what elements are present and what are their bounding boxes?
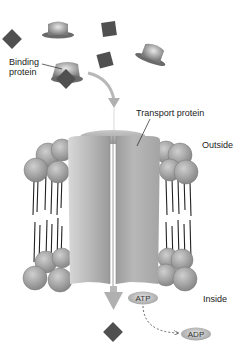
transport-protein-channel [68,130,160,290]
outside-label: Outside [202,140,233,150]
solute-molecule [101,21,117,37]
membrane-transport-diagram: ATP ADP [0,0,244,360]
svg-text:ATP: ATP [136,294,151,303]
binding-protein-hat-icon [134,39,171,68]
transport-protein-label: Transport protein [136,108,204,118]
binding-protein-hat-icon [42,22,74,39]
transport-down-arrow [104,286,123,310]
atp-to-adp-arrow [143,306,178,333]
binding-protein-label: Binding protein [9,57,39,77]
atp-pill: ATP [128,292,158,305]
binding-protein-label-line1: Binding [9,57,39,67]
binding-protein-label-line2: protein [9,67,39,77]
adp-pill: ADP [181,328,211,341]
solute-molecule-released [103,322,123,342]
inside-label: Inside [203,294,227,304]
transport-path-arrow [88,73,114,100]
solute-molecule [96,51,113,68]
lipid-bilayer-left [23,139,73,292]
solute-molecule [2,29,22,49]
bound-binding-protein [51,62,83,89]
lipid-bilayer-right [155,141,198,291]
svg-text:ADP: ADP [188,330,204,339]
